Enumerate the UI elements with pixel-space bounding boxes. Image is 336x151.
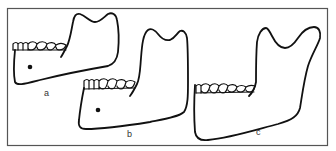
panel-label-c: c [256,128,261,137]
mental-foramen-b [96,108,101,113]
mandible-b [79,29,188,129]
mandible-c [194,27,320,140]
mandible-a [13,13,119,84]
panel-label-a: a [44,89,49,98]
mental-foramen-a [28,65,33,70]
panel-label-b: b [127,130,132,139]
mandible-diagram [0,0,336,151]
